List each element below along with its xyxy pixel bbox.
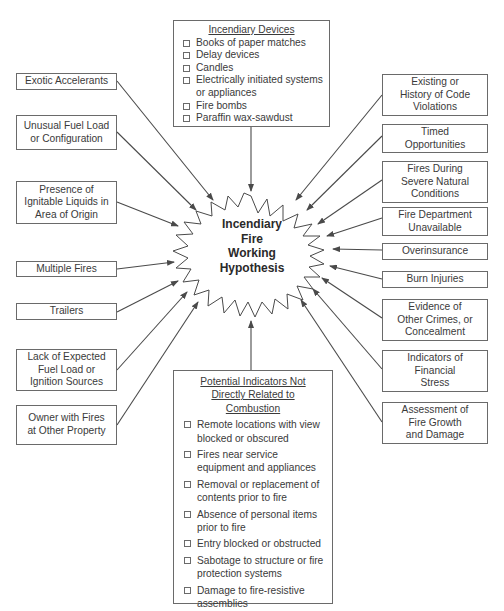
factor-box-exotic-accelerants: Exotic Accelerants [16, 73, 117, 90]
factor-box-burn-injuries: Burn Injuries [382, 271, 488, 288]
potential-indicators-box: Potential Indicators Not Directly Relate… [173, 370, 333, 604]
incendiary-devices-box: Incendiary Devices Books of paper matche… [173, 20, 330, 127]
checkbox-bullet-icon [183, 115, 190, 122]
factor-box-fire-growth-assessment: Assessment of Fire Growth and Damage [382, 402, 488, 444]
list-item: Sabotage to structure or fire protection… [178, 554, 328, 581]
list-item: Delay devices [177, 49, 326, 62]
factor-box-code-violations: Existing or History of Code Violations [382, 74, 488, 116]
list-item: Damage to fire-resistive assemblies [178, 584, 328, 611]
checkbox-bullet-icon [183, 77, 190, 84]
factor-box-multiple-fires: Multiple Fires [16, 261, 117, 277]
factor-box-financial-stress: Indicators of Financial Stress [382, 350, 488, 392]
list-item: Fires near service equipment and applian… [178, 448, 328, 475]
factor-box-other-crimes: Evidence of Other Crimes, or Concealment [382, 299, 488, 341]
factor-box-ignitable-liquids: Presence of Ignitable Liquids in Area of… [16, 181, 117, 224]
checkbox-bullet-icon [184, 511, 191, 518]
checkbox-bullet-icon [184, 451, 191, 458]
list-item: Remote locations with view blocked or ob… [178, 418, 328, 445]
checkbox-bullet-icon [183, 52, 190, 59]
incendiary-devices-title: Incendiary Devices [177, 24, 326, 37]
list-item: Entry blocked or obstructed [178, 537, 328, 550]
potential-indicators-title: Potential Indicators Not Directly Relate… [178, 375, 328, 415]
factor-box-overinsurance: Overinsurance [382, 243, 488, 260]
checkbox-bullet-icon [184, 540, 191, 547]
list-item: Electrically initiated systems or applia… [177, 74, 326, 99]
factor-box-fire-department-unavailable: Fire Department Unavailable [382, 207, 488, 236]
list-item: Candles [177, 62, 326, 75]
list-item: Fire bombs [177, 100, 326, 113]
checkbox-bullet-icon [184, 587, 191, 594]
checkbox-bullet-icon [184, 481, 191, 488]
factor-box-timed-opportunities: Timed Opportunities [382, 124, 488, 153]
factor-box-lack-of-fuel-load: Lack of Expected Fuel Load or Ignition S… [16, 349, 117, 391]
list-item: Books of paper matches [177, 37, 326, 50]
checkbox-bullet-icon [183, 103, 190, 110]
checkbox-bullet-icon [184, 557, 191, 564]
checkbox-bullet-icon [183, 65, 190, 72]
factor-box-trailers: Trailers [16, 303, 117, 320]
list-item: Paraffin wax-sawdust [177, 112, 326, 125]
list-item: Absence of personal items prior to fire [178, 508, 328, 535]
factor-box-owner-other-fires: Owner with Fires at Other Property [16, 405, 117, 445]
factor-box-unusual-fuel-load: Unusual Fuel Load or Configuration [16, 115, 117, 150]
factor-box-severe-natural-conditions: Fires During Severe Natural Conditions [382, 161, 488, 203]
checkbox-bullet-icon [183, 40, 190, 47]
central-hypothesis-label: Incendiary Fire Working Hypothesis [196, 217, 308, 275]
checkbox-bullet-icon [184, 421, 191, 428]
list-item: Removal or replacement of contents prior… [178, 478, 328, 505]
